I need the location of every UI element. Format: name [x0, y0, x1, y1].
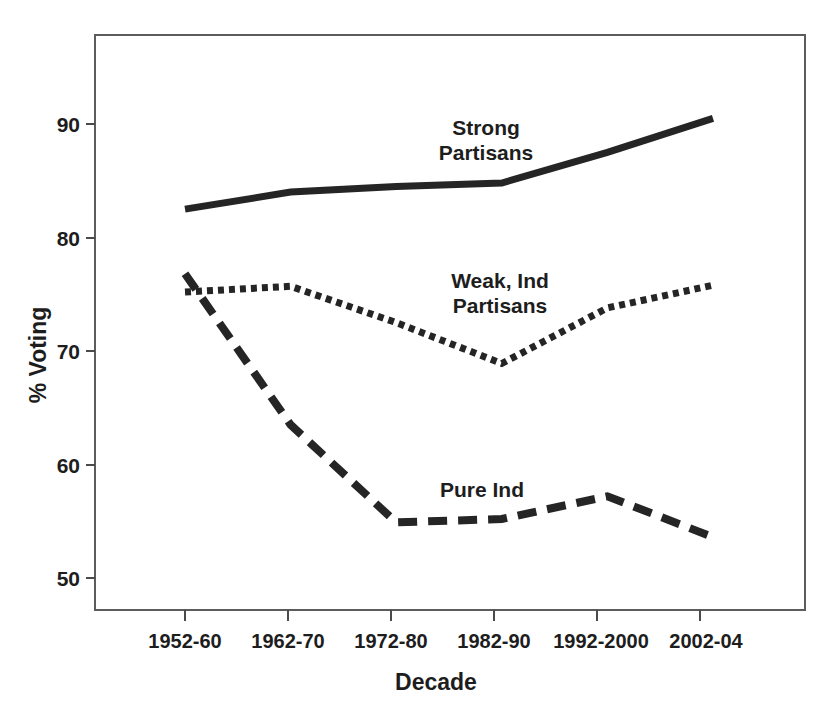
- series-label-strong-partisans: Strong Partisans: [439, 116, 534, 164]
- y-tick-label-50: 50: [57, 567, 80, 590]
- series-label-strong-line2: Partisans: [439, 141, 534, 164]
- x-tick-label-1: 1952-60: [148, 630, 221, 652]
- x-tick-label-4: 1982-90: [457, 630, 530, 652]
- y-tick-label-90: 90: [57, 113, 80, 136]
- chart-figure: 90 80 70 60 50 % Voting 1952-60 1962-70 …: [0, 0, 839, 707]
- y-axis-tick-labels: 90 80 70 60 50: [57, 113, 80, 590]
- series-label-strong-line1: Strong: [452, 116, 520, 139]
- x-axis-title: Decade: [395, 669, 477, 695]
- x-tick-label-5: 1992-2000: [553, 630, 649, 652]
- x-tick-label-2: 1962-70: [251, 630, 324, 652]
- series-label-weak-line1: Weak, Ind: [451, 269, 549, 292]
- series-label-pure-line1: Pure Ind: [440, 478, 524, 501]
- x-axis-tickmarks: [185, 610, 700, 621]
- y-tick-label-70: 70: [57, 340, 80, 363]
- y-axis-title: % Voting: [25, 307, 51, 404]
- series-label-weak-line2: Partisans: [453, 294, 548, 317]
- line-chart-canvas: 90 80 70 60 50 % Voting 1952-60 1962-70 …: [0, 0, 839, 707]
- x-tick-label-6: 2002-04: [669, 630, 743, 652]
- y-tick-label-60: 60: [57, 454, 80, 477]
- series-line-weak-ind-partisans: [185, 285, 713, 363]
- y-axis-tickmarks: [86, 124, 95, 578]
- series-label-pure-ind: Pure Ind: [440, 478, 524, 501]
- x-axis-tick-labels: 1952-60 1962-70 1972-80 1982-90 1992-200…: [148, 630, 743, 652]
- y-tick-label-80: 80: [57, 227, 80, 250]
- series-label-weak-ind-partisans: Weak, Ind Partisans: [451, 269, 549, 317]
- x-tick-label-3: 1972-80: [354, 630, 427, 652]
